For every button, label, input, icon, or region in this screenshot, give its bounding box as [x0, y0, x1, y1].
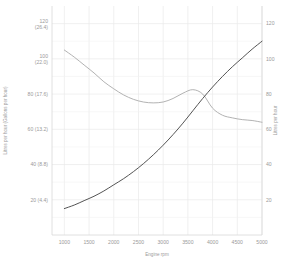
- x-axis-tick-label: 5000: [256, 239, 267, 245]
- x-axis-tick-label: 4500: [232, 239, 243, 245]
- x-axis-tick-label: 3500: [182, 239, 193, 245]
- fuel-consumption-chart: 20 (4.4)40 (8.8)60 (13.2)80 (17.6)100(22…: [0, 0, 282, 265]
- y-axis-left-tick-label: 40 (8.8): [30, 161, 48, 167]
- x-axis-tick-label: 2000: [108, 239, 119, 245]
- y-axis-right-tick-label: 40: [266, 161, 272, 167]
- x-axis-tick-label: 1000: [59, 239, 70, 245]
- y-axis-right-title: Litres per hour: [273, 105, 278, 135]
- y-axis-left-tick-label: 60 (13.2): [28, 126, 49, 132]
- x-axis-tick-labels: 100015002000250030003500400045005000: [59, 239, 268, 245]
- chart-canvas: 20 (4.4)40 (8.8)60 (13.2)80 (17.6)100(22…: [0, 0, 282, 265]
- x-axis-title: Engine rpm: [145, 252, 169, 257]
- x-axis-tick-label: 1500: [83, 239, 94, 245]
- y-axis-left-tick-label: 80 (17.6): [28, 91, 49, 97]
- y-axis-right-tick-label: 100: [266, 56, 275, 62]
- y-axis-left-tick-label: 100(22.0): [35, 53, 49, 65]
- y-axis-left-tick-label: 120(26.4): [35, 18, 49, 30]
- y-axis-left-tick-labels: 20 (4.4)40 (8.8)60 (13.2)80 (17.6)100(22…: [28, 18, 49, 203]
- x-axis-tick-label: 3000: [158, 239, 169, 245]
- x-axis-tick-label: 4000: [207, 239, 218, 245]
- y-axis-right-tick-label: 120: [266, 20, 275, 26]
- y-axis-right-tick-label: 80: [266, 91, 272, 97]
- y-axis-right-tick-label: 60: [266, 126, 272, 132]
- y-axis-left-title: Litres per hour (Gallons per hour): [3, 86, 8, 154]
- x-axis-tick-label: 2500: [133, 239, 144, 245]
- y-axis-left-tick-label: 20 (4.4): [30, 197, 48, 203]
- y-axis-right-tick-label: 20: [266, 197, 272, 203]
